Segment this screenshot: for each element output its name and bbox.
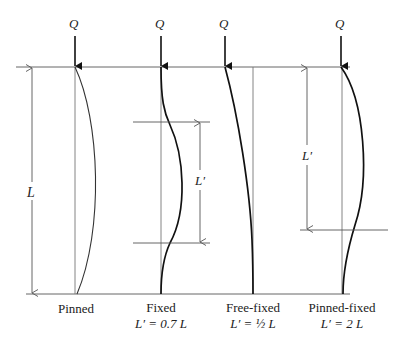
load-label-fixed: Q — [155, 16, 165, 31]
column-pinned-fixed: Q L′ Pinned-fixed L′ = 2 L — [300, 16, 388, 331]
column-formula-fixed: L′ = 0.7 L — [134, 316, 187, 331]
column-fixed: Q L′ Fixed L′ = 0.7 L — [133, 16, 210, 331]
buckled-shape-pinned — [75, 67, 96, 294]
load-label-free-fixed: Q — [219, 16, 229, 31]
length-dimension: L — [26, 68, 35, 293]
buckled-shape-free-fixed — [225, 67, 253, 294]
column-name-pinned: Pinned — [58, 301, 95, 316]
length-label: L — [26, 185, 35, 200]
column-pinned: Q Pinned — [58, 16, 96, 316]
column-name-pinned-fixed: Pinned-fixed — [308, 300, 376, 315]
buckled-shape-pinned-fixed — [341, 67, 363, 294]
column-free-fixed: Q Free-fixed L′ = ½ L — [219, 16, 281, 331]
load-label-pinned: Q — [69, 16, 79, 31]
buckled-shape-fixed — [161, 67, 182, 294]
column-formula-pinned-fixed: L′ = 2 L — [320, 316, 363, 331]
column-name-fixed: Fixed — [146, 300, 176, 315]
effective-length-label-fixed: L′ — [194, 173, 205, 188]
column-name-free-fixed: Free-fixed — [226, 300, 281, 315]
buckling-modes-diagram: L Q Pinned Q L′ Fixed L′ = 0.7 L Q Free-… — [0, 0, 408, 337]
effective-length-label-pinned-fixed: L′ — [301, 148, 312, 163]
load-label-pinned-fixed: Q — [335, 16, 345, 31]
column-formula-free-fixed: L′ = ½ L — [229, 316, 276, 331]
